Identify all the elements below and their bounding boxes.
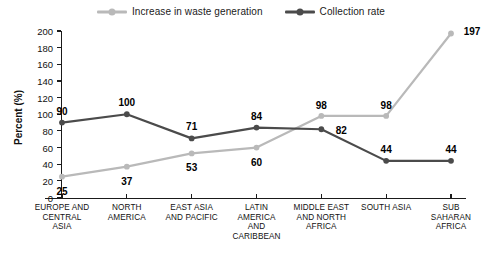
y-axis-tick-label: 60 xyxy=(20,142,53,153)
y-axis-tick xyxy=(57,147,61,148)
x-axis-category-label: MIDDLE EASTAND NORTHAFRICA xyxy=(284,203,358,232)
legend-label: Increase in waste generation xyxy=(132,6,263,17)
y-axis-tick-label: 160 xyxy=(20,59,53,70)
y-axis-tick xyxy=(57,47,61,48)
waste-chart: Increase in waste generation Collection … xyxy=(0,0,482,264)
data-point-label: 98 xyxy=(316,99,327,110)
data-point-label: 53 xyxy=(186,162,197,173)
data-point-label: 44 xyxy=(381,143,392,154)
data-point-label: 82 xyxy=(336,125,347,136)
x-axis-tick xyxy=(256,194,257,198)
chart-legend: Increase in waste generation Collection … xyxy=(0,6,482,17)
data-point-label: 60 xyxy=(251,156,262,167)
x-axis-category-label: EAST ASIAAND PACIFIC xyxy=(155,203,229,222)
data-point-label: 44 xyxy=(445,143,456,154)
x-axis-tick xyxy=(321,194,322,198)
y-axis-tick-label: 200 xyxy=(20,26,53,37)
y-axis-tick-label: 100 xyxy=(20,109,53,120)
x-axis-category-label: SOUTH ASIA xyxy=(349,203,423,213)
y-axis-tick-label: 80 xyxy=(20,125,53,136)
data-point-label: 84 xyxy=(251,110,262,121)
y-axis-tick-label: 140 xyxy=(20,75,53,86)
y-axis-tick xyxy=(57,197,61,198)
x-axis-tick xyxy=(191,194,192,198)
legend-item-increase-in-waste-generation: Increase in waste generation xyxy=(97,6,263,17)
data-point-label: 25 xyxy=(56,185,67,196)
x-axis-category-label: EUROPE ANDCENTRALASIA xyxy=(25,203,99,232)
y-axis-tick xyxy=(57,164,61,165)
legend-marker-icon xyxy=(285,7,315,16)
y-axis-tick xyxy=(57,180,61,181)
y-axis-tick xyxy=(57,80,61,81)
y-axis-tick xyxy=(57,64,61,65)
x-axis-category-label: NORTHAMERICA xyxy=(90,203,164,222)
data-point-label: 37 xyxy=(121,175,132,186)
data-point-label: 90 xyxy=(56,105,67,116)
data-point-label: 98 xyxy=(381,99,392,110)
legend-item-collection-rate: Collection rate xyxy=(285,6,385,17)
y-axis-tick xyxy=(57,97,61,98)
y-axis-tick-label: 180 xyxy=(20,42,53,53)
y-axis-tick xyxy=(57,130,61,131)
y-axis-tick-label: 20 xyxy=(20,175,53,186)
data-point-label: 100 xyxy=(118,97,135,108)
legend-marker-icon xyxy=(97,7,127,16)
x-axis-category-label: SUBSAHARANAFRICA xyxy=(414,203,482,232)
legend-label: Collection rate xyxy=(320,6,385,17)
x-axis-category-label: LATINAMERICAANDCARIBBEAN xyxy=(220,203,294,241)
y-axis-tick-label: 40 xyxy=(20,159,53,170)
y-axis-tick-label: 120 xyxy=(20,92,53,103)
data-point-label: 71 xyxy=(186,121,197,132)
y-axis-tick-label: 0 xyxy=(20,192,53,203)
x-axis-tick xyxy=(386,194,387,198)
x-axis-tick xyxy=(450,194,451,198)
y-axis-tick xyxy=(57,30,61,31)
x-axis-tick xyxy=(126,194,127,198)
data-point-label: 197 xyxy=(464,26,481,37)
